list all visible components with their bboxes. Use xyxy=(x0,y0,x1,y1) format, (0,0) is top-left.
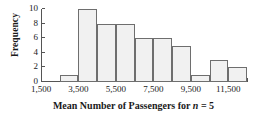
y-tick-label: 2 xyxy=(34,62,39,71)
y-tick: 2 xyxy=(42,66,45,67)
histogram-figure: Frequency 0246810 1,5003,5005,5007,5009,… xyxy=(0,0,267,120)
x-axis-title-before: Mean Number of Passengers for xyxy=(53,100,193,111)
histogram-bar xyxy=(78,9,97,82)
y-tick: 8 xyxy=(42,23,45,24)
x-axis-title: Mean Number of Passengers for n = 5 xyxy=(0,100,267,111)
y-tick-label: 8 xyxy=(34,18,39,27)
y-axis-title: Frequency xyxy=(10,0,20,71)
histogram-bar xyxy=(228,67,247,82)
histogram-bar xyxy=(60,75,79,82)
x-tick-label: 5,500 xyxy=(106,85,126,94)
histogram-bar xyxy=(135,38,154,82)
histogram-bar xyxy=(153,38,172,82)
x-tick xyxy=(247,78,248,82)
x-tick-label: 11,500 xyxy=(216,85,240,94)
histogram-bar xyxy=(172,46,191,83)
y-tick: 0 xyxy=(42,81,45,82)
x-tick xyxy=(41,78,42,82)
x-axis-title-after: = 5 xyxy=(198,100,214,111)
y-tick: 4 xyxy=(42,52,45,53)
x-tick-label: 3,500 xyxy=(68,85,88,94)
y-tick: 6 xyxy=(42,37,45,38)
histogram-bar xyxy=(116,24,135,82)
y-axis-line xyxy=(41,9,42,82)
y-tick-label: 4 xyxy=(34,47,39,56)
x-tick-label: 7,500 xyxy=(143,85,163,94)
x-tick-label: 1,500 xyxy=(31,85,51,94)
histogram-bar xyxy=(191,75,210,82)
x-tick-label: 9,500 xyxy=(181,85,201,94)
plot-area: 0246810 1,5003,5005,5007,5009,50011,500 xyxy=(41,9,247,82)
y-tick-label: 6 xyxy=(34,33,39,42)
histogram-bar xyxy=(97,24,116,82)
y-tick-label: 10 xyxy=(29,4,38,13)
histogram-bar xyxy=(210,60,229,82)
y-tick: 10 xyxy=(42,8,45,9)
